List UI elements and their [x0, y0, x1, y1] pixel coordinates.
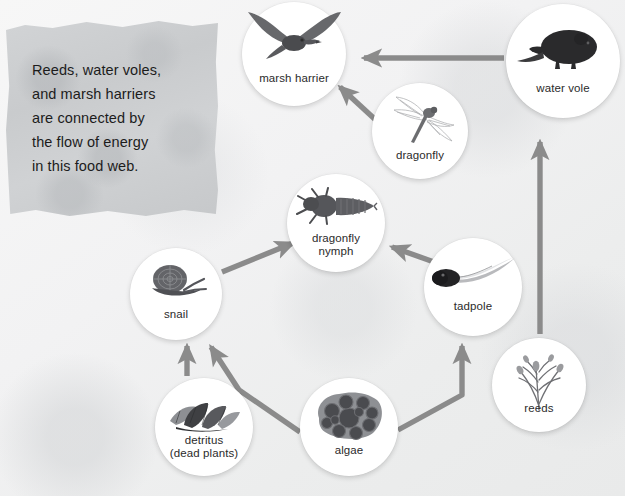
- node-label-reeds: reeds: [492, 402, 586, 415]
- node-water-vole[interactable]: water vole: [506, 4, 620, 118]
- arrow-snail-to-dragonfly-nymph: [222, 243, 293, 272]
- vole-icon: [515, 26, 611, 74]
- node-dragonfly-nymph[interactable]: dragonfly nymph: [287, 174, 385, 272]
- node-label-detritus-line2: (dead plants): [155, 447, 253, 460]
- node-label-water-vole: water vole: [506, 82, 620, 95]
- node-algae[interactable]: algae: [300, 378, 398, 476]
- node-label-dragonfly-nymph-line2: nymph: [287, 245, 385, 258]
- node-reeds[interactable]: reeds: [492, 338, 586, 432]
- node-label-snail: snail: [130, 308, 222, 321]
- food-web-figure: Reeds, water voles, and marsh harriers a…: [0, 0, 625, 496]
- node-label-marsh-harrier: marsh harrier: [242, 72, 346, 85]
- tadpole-icon: [430, 256, 516, 292]
- bird-icon: [246, 10, 342, 68]
- node-label-algae: algae: [300, 444, 398, 457]
- node-tadpole[interactable]: tadpole: [424, 238, 522, 336]
- snail-icon: [140, 264, 212, 304]
- arrow-algae-to-tadpole: [398, 346, 462, 430]
- node-label-tadpole: tadpole: [424, 300, 522, 313]
- node-marsh-harrier[interactable]: marsh harrier: [242, 2, 346, 106]
- node-snail[interactable]: snail: [130, 248, 222, 340]
- node-label-dragonfly-nymph-line1: dragonfly: [287, 232, 385, 245]
- node-detritus[interactable]: detritus (dead plants): [155, 378, 253, 476]
- dragonfly-nymph-icon: [294, 187, 378, 227]
- algae-icon: [311, 390, 387, 442]
- node-dragonfly[interactable]: dragonfly: [372, 83, 468, 179]
- node-label-dragonfly: dragonfly: [372, 149, 468, 162]
- dragonfly-icon: [382, 93, 458, 153]
- detritus-icon: [164, 395, 244, 433]
- node-label-detritus-line1: detritus: [155, 434, 253, 447]
- arrow-tadpole-to-dragonfly-nymph: [392, 247, 434, 262]
